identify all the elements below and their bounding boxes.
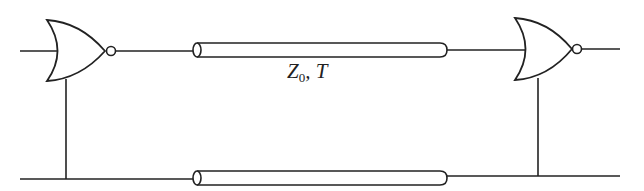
circuit-diagram: Z0, T — [0, 0, 644, 191]
label-suffix: , T — [305, 59, 329, 83]
transmission-line-top — [193, 43, 526, 57]
label-z: Z — [287, 59, 299, 83]
transmission-line-bottom — [20, 171, 620, 185]
nor-gate-right — [515, 18, 620, 176]
nor-gate-left — [20, 20, 193, 179]
bottom-cable-left-end — [193, 171, 201, 185]
top-cable-left-end — [193, 43, 201, 57]
right-nor-gate-body — [515, 18, 572, 80]
right-gate-inverter-bubble — [573, 45, 582, 54]
transmission-line-label: Z0, T — [287, 59, 329, 85]
bottom-cable-body — [197, 171, 447, 185]
top-cable-body — [197, 43, 447, 57]
left-gate-inverter-bubble — [107, 47, 116, 56]
